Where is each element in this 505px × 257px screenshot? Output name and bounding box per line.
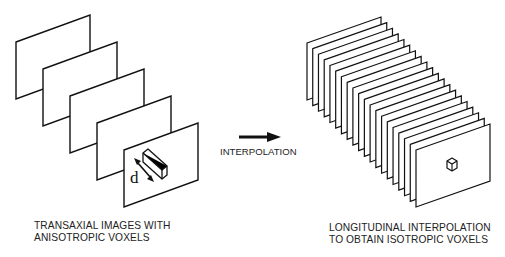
left-caption-line-2: ANISOTROPIC VOXELS: [34, 232, 171, 244]
right-caption: LONGITUDINAL INTERPOLATION TO OBTAIN ISO…: [329, 222, 491, 246]
transaxial-image-stack: [16, 15, 198, 207]
right-caption-line-1: LONGITUDINAL INTERPOLATION: [329, 222, 491, 234]
left-caption: TRANSAXIAL IMAGES WITH ANISOTROPIC VOXEL…: [34, 220, 171, 244]
voxel-dimension-label: d: [130, 168, 139, 188]
diagram-canvas: [0, 0, 505, 257]
left-caption-line-1: TRANSAXIAL IMAGES WITH: [34, 220, 171, 232]
interpolated-image-stack: [307, 17, 490, 207]
right-caption-line-2: TO OBTAIN ISOTROPIC VOXELS: [329, 234, 491, 246]
isotropic-voxel-icon: [447, 158, 457, 171]
right-arrow-icon: [239, 132, 281, 142]
interpolation-label: INTERPOLATION: [220, 146, 297, 157]
